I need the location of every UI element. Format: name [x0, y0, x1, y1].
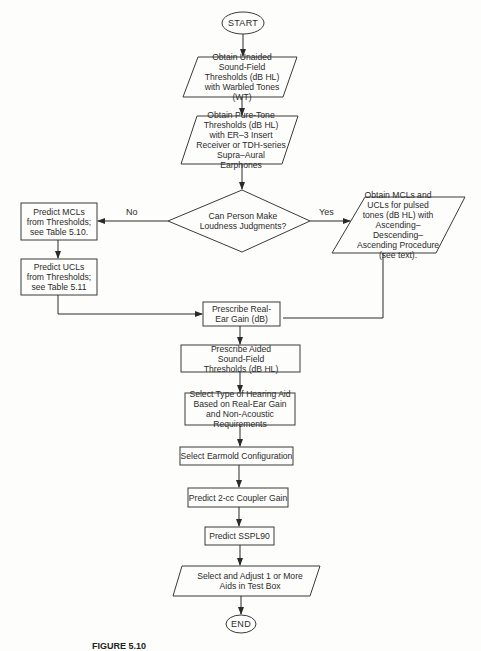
predict-ucl-label: Predict UCLs from Thresholds; see Table … — [24, 260, 94, 293]
adjust-label: Select and Adjust 1 or More Aids in Test… — [190, 568, 310, 594]
yes-edge-label: Yes — [319, 207, 334, 217]
coupler-gain-label: Predict 2-cc Coupler Gain — [188, 488, 288, 507]
puretone-label: Obtain Pure-Tone Thresholds (dB HL) with… — [196, 118, 286, 162]
arrow-ucl-realear — [58, 295, 202, 314]
no-edge-label: No — [126, 207, 138, 217]
earmold-label: Select Earmold Configuration — [180, 447, 293, 465]
select-type-label: Select Type of Hearing Aid Based on Real… — [188, 394, 292, 424]
sspl90-label: Predict SSPL90 — [205, 527, 274, 545]
unaided-label: Obtain Unaided Sound-Field Thresholds (d… — [198, 59, 286, 95]
decision-label: Can Person Make Loudness Judgments? — [198, 210, 288, 232]
obtain-mcl-ucl-label: Obtain MCLs and UCLs for pulsed tones (d… — [356, 199, 440, 251]
predict-mcl-label: Predict MCLs from Thresholds; see Table … — [24, 205, 94, 238]
start-label: START — [222, 13, 264, 33]
line-right-realear — [283, 253, 383, 318]
aided-thresholds-label: Prescribe Aided Sound-Field Thresholds (… — [196, 346, 286, 371]
end-label: END — [226, 615, 256, 633]
figure-caption: FIGURE 5.10 — [92, 641, 146, 651]
real-ear-gain-label: Prescribe Real-Ear Gain (dB) — [206, 303, 277, 325]
